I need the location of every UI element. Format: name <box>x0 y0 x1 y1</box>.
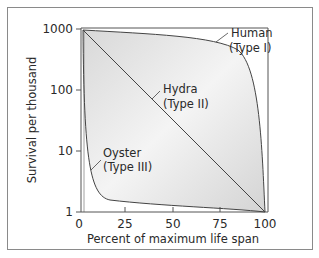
x-tick-50: 50 <box>165 217 180 231</box>
y-tick-1: 1 <box>65 205 73 219</box>
human-leader <box>216 33 228 42</box>
y-axis-title: Survival per thousand <box>25 57 39 184</box>
y-tick-100: 100 <box>50 83 73 97</box>
x-axis-title: Percent of maximum life span <box>87 232 259 246</box>
oyster-label: Oyster <box>103 146 141 160</box>
x-tick-100: 100 <box>254 217 277 231</box>
hydra-label: Hydra <box>163 82 198 96</box>
x-tick-0: 0 <box>75 217 83 231</box>
human-label: Human <box>231 26 272 40</box>
y-tick-10: 10 <box>58 144 73 158</box>
oyster-type-label: (Type III) <box>103 160 152 174</box>
hydra-type-label: (Type II) <box>163 97 209 111</box>
x-tick-25: 25 <box>117 217 132 231</box>
human-type-label: (Type I) <box>229 41 271 55</box>
y-tick-1000: 1000 <box>42 22 73 36</box>
survivorship-chart: 1000 100 10 1 0 25 50 75 100 Percent of … <box>0 0 319 258</box>
x-tick-75: 75 <box>212 217 227 231</box>
y-ticks <box>76 29 81 212</box>
